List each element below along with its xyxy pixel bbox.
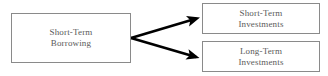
node-short-term-investments[interactable]: Short-Term Investments bbox=[202, 3, 320, 34]
node-label-line2: Investments bbox=[238, 19, 283, 30]
arrow-to-short-term-investments bbox=[131, 19, 197, 39]
arrow-to-long-term-investments bbox=[131, 38, 196, 57]
node-label-line1: Short-Term bbox=[50, 27, 93, 38]
flow-diagram: Short-Term Borrowing Short-Term Investme… bbox=[0, 0, 328, 76]
node-short-term-borrowing[interactable]: Short-Term Borrowing bbox=[11, 13, 131, 63]
node-label-line1: Short-Term bbox=[240, 8, 283, 19]
node-long-term-investments[interactable]: Long-Term Investments bbox=[202, 41, 320, 72]
node-label-line1: Long-Term bbox=[240, 46, 282, 57]
node-label-line2: Investments bbox=[238, 57, 283, 68]
node-label-line2: Borrowing bbox=[51, 38, 91, 49]
